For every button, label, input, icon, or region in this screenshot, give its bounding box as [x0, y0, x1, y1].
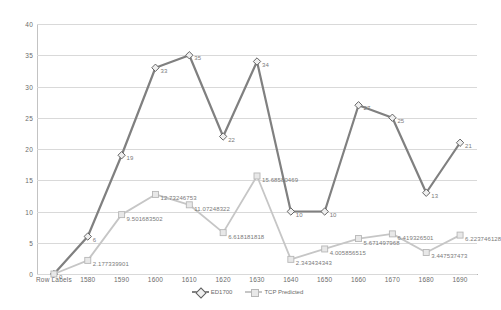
x-axis-tick-label: 1640 [283, 276, 298, 283]
data-point-label: 35 [194, 55, 201, 61]
legend-entry-ed1700[interactable]: ED1700 [192, 288, 233, 295]
x-axis-tick-label: 1620 [216, 276, 231, 283]
data-point-label: 3.447537473 [431, 253, 467, 259]
data-point-marker [356, 236, 362, 242]
y-axis-tick-label: 35 [25, 52, 33, 59]
series-line-tcp-predicted [54, 176, 460, 274]
x-axis-tick-label: 1600 [148, 276, 163, 283]
x-axis-tick-label: 1630 [249, 276, 264, 283]
data-point-label: 25 [397, 118, 404, 124]
data-point-label: 10 [296, 212, 303, 218]
y-axis-tick-label: 15 [25, 177, 33, 184]
data-point-label: 2.343434343 [296, 260, 332, 266]
data-point-marker [186, 52, 193, 59]
data-point-marker [253, 58, 260, 65]
x-axis-tick-label: 1580 [80, 276, 95, 283]
data-point-marker [288, 256, 294, 262]
data-point-marker [254, 173, 260, 179]
data-point-label: 19 [127, 155, 134, 161]
chart-legend: ED1700TCP Predicted [0, 288, 495, 295]
legend-swatch-icon [192, 288, 209, 295]
data-point-label: 10 [330, 212, 337, 218]
data-point-marker [152, 64, 159, 71]
data-point-label: 12.73246753 [160, 195, 196, 201]
data-point-label: 2.177339901 [93, 261, 129, 267]
y-axis-tick-label: 10 [25, 208, 33, 215]
data-point-marker [322, 246, 328, 252]
legend-swatch-icon [245, 288, 262, 295]
legend-label: ED1700 [211, 289, 233, 295]
data-point-marker [219, 133, 226, 140]
legend-label: TCP Predicted [264, 289, 303, 295]
data-point-label: 9.501683502 [127, 216, 163, 222]
data-point-marker [457, 232, 463, 238]
data-point-label: 27 [364, 105, 371, 111]
data-point-label: 21 [465, 143, 472, 149]
y-axis-tick-label: 30 [25, 83, 33, 90]
data-point-label: 15.68580469 [262, 177, 298, 183]
data-point-marker [389, 114, 396, 121]
y-axis-tick-label: 25 [25, 114, 33, 121]
data-point-marker [118, 152, 125, 159]
data-point-label: 4.005856515 [330, 250, 366, 256]
y-axis-tick-label: 0 [29, 271, 33, 278]
x-axis-tick-label: 1660 [351, 276, 366, 283]
data-point-label: 6.618181818 [228, 234, 264, 240]
y-axis-tick-label: 40 [25, 21, 33, 28]
data-point-marker [423, 249, 429, 255]
data-point-marker [220, 230, 226, 236]
data-point-marker [186, 202, 192, 208]
data-point-label: 6 [93, 237, 96, 243]
x-axis-tick-label: 1590 [114, 276, 129, 283]
data-point-label: 11.07248322 [194, 206, 230, 212]
data-point-marker [85, 257, 91, 263]
data-point-label: 33 [160, 68, 167, 74]
data-point-label: 5.671497968 [364, 240, 400, 246]
plot-area: 0510152025303540 06193335223410102725132… [37, 24, 477, 274]
x-axis-tick-label: Row Labels [36, 276, 72, 283]
data-point-label: 34 [262, 62, 269, 68]
data-point-label: 13 [431, 193, 438, 199]
data-point-label: 6.223746128 [465, 236, 501, 242]
x-axis-tick-label: 1610 [182, 276, 197, 283]
legend-entry-tcp-predicted[interactable]: TCP Predicted [245, 288, 303, 295]
data-point-marker [119, 212, 125, 218]
data-point-marker [355, 102, 362, 109]
data-point-marker [287, 208, 294, 215]
gridline [37, 274, 477, 275]
x-axis-tick-label: 1690 [452, 276, 467, 283]
x-axis-tick-label: 1650 [317, 276, 332, 283]
x-axis-tick-label: 1670 [385, 276, 400, 283]
y-axis-tick-label: 20 [25, 146, 33, 153]
y-axis-tick-label: 5 [29, 239, 33, 246]
data-point-marker [152, 191, 158, 197]
x-axis-tick-label: 1680 [419, 276, 434, 283]
data-point-label: 22 [228, 137, 235, 143]
data-point-marker [321, 208, 328, 215]
data-point-marker [389, 231, 395, 237]
data-point-label: 6.419326501 [397, 235, 433, 241]
